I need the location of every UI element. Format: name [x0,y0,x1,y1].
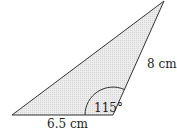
triangle-diagram: 115° 8 cm 6.5 cm [0,0,177,130]
triangle-shape [12,1,164,115]
side-length-label: 8 cm [147,57,177,71]
base-length-label: 6.5 cm [47,117,89,130]
angle-label: 115° [94,101,123,115]
